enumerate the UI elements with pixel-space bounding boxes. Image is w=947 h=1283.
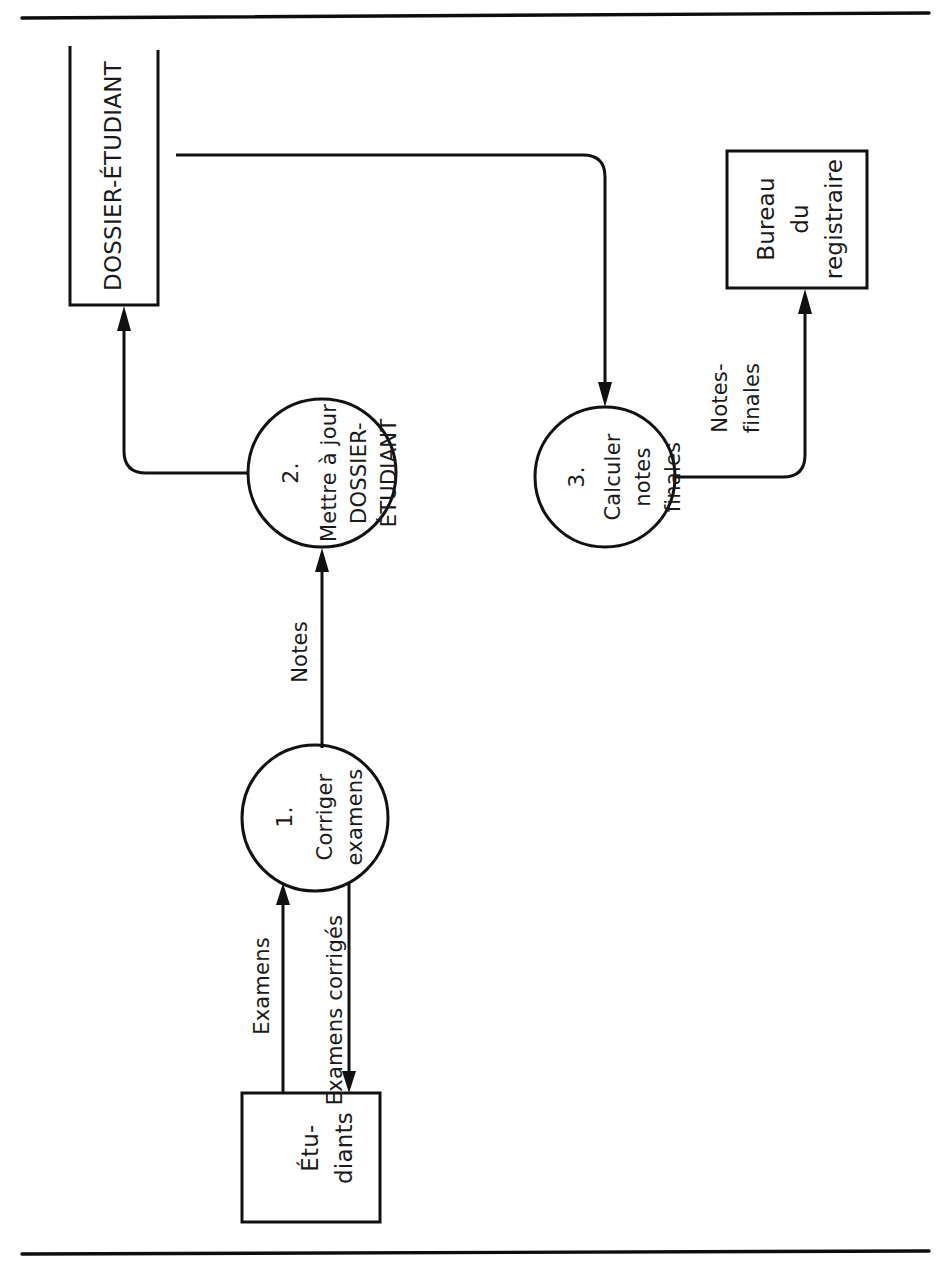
process-2-label-line2: DOSSIER- — [345, 406, 373, 540]
flow-label-notes: Notes — [286, 592, 314, 712]
flow-label-examens: Examens — [248, 916, 276, 1056]
process-2-number: 2. — [277, 406, 305, 540]
flow-notes-arrowhead — [315, 548, 329, 572]
flow-label-notes-finales-line2: finales — [738, 336, 766, 460]
flow-p2-to-data-store — [117, 306, 248, 473]
flow-notes — [315, 548, 329, 748]
process-1-label-line2: examens — [341, 762, 369, 872]
horizontal-rule-bottom — [22, 1251, 929, 1254]
external-entity-label-bureau-line1: Bureau — [752, 159, 782, 279]
flow-label-examens-corriges: Examens corrigés — [321, 900, 349, 1120]
process-1-label-line1: Corriger — [311, 762, 339, 872]
flow-data-store-to-p3-line — [176, 155, 605, 383]
data-store-label-dossier-etudiant: DOSSIER-ÉTUDIANT — [92, 48, 136, 304]
diagram-page: DOSSIER-ÉTUDIANT Étu- diants Bureau du r… — [0, 0, 947, 1283]
process-2-label-line1: Mettre à jour — [315, 406, 343, 540]
flow-p2-to-data-store-arrowhead — [117, 306, 131, 331]
flow-data-store-to-p3-arrowhead — [598, 382, 612, 407]
flow-p2-to-data-store-line — [124, 330, 248, 473]
flow-data-store-to-p3 — [176, 155, 612, 407]
flow-examens — [276, 883, 290, 1093]
external-entity-label-bureau-line3: registraire — [820, 159, 850, 279]
process-3-label-line3: finales — [659, 422, 687, 532]
flow-label-notes-finales-line1: Notes- — [706, 336, 734, 460]
process-3-label-line2: notes — [629, 422, 657, 532]
flow-notes-finales-arrowhead — [798, 289, 812, 314]
horizontal-rule-top — [22, 13, 929, 18]
process-2-label-line3: ÉTUDIANT — [375, 406, 403, 540]
process-1-number: 1. — [271, 762, 299, 872]
external-entity-label-bureau-line2: du — [786, 159, 816, 279]
process-3-number: 3. — [563, 422, 591, 532]
process-3-label-line1: Calculer — [599, 422, 627, 532]
